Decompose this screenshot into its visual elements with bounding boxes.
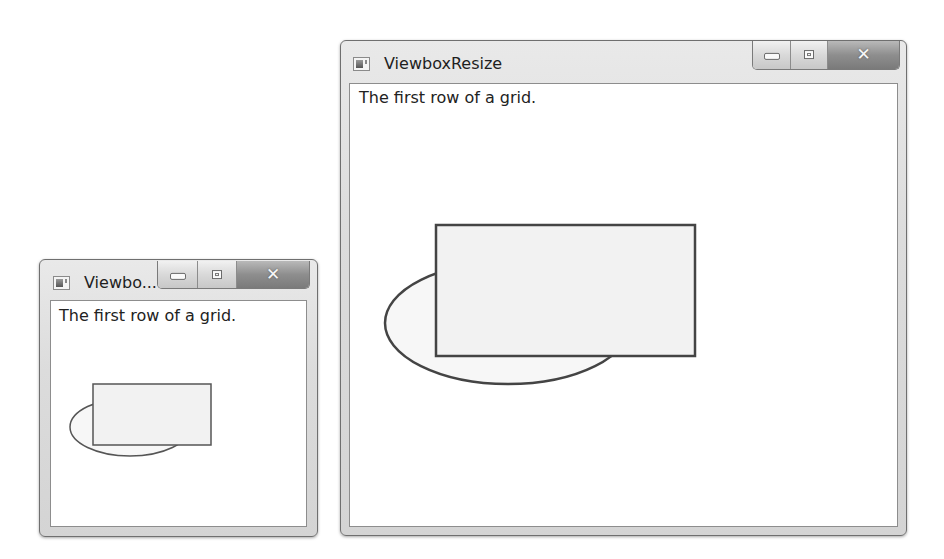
small-window-shapes (70, 384, 211, 456)
viewbox-shapes (0, 0, 944, 559)
rectangle-shape (93, 384, 211, 445)
large-window-shapes (385, 225, 695, 384)
rectangle-shape (436, 225, 695, 356)
